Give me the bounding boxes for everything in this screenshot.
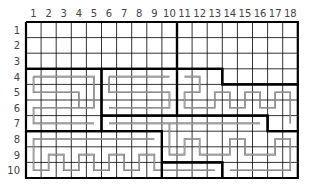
column-label: 14: [223, 8, 236, 19]
column-label: 9: [151, 8, 157, 19]
column-label: 12: [193, 8, 206, 19]
snake-mid-center-2-inner: [109, 77, 169, 108]
row-label: 4: [14, 72, 20, 83]
column-label: 8: [136, 8, 142, 19]
column-label: 2: [45, 8, 51, 19]
column-label: 16: [254, 8, 267, 19]
column-label: 10: [163, 8, 176, 19]
column-label: 7: [121, 8, 127, 19]
row-label: 10: [7, 165, 20, 176]
puzzle-grid: 12345678910111213141516171812345678910: [0, 0, 311, 190]
column-label: 18: [284, 8, 297, 19]
column-label: 11: [178, 8, 191, 19]
column-label: 13: [208, 8, 221, 19]
row-label: 9: [14, 150, 20, 161]
row-label: 2: [14, 40, 20, 51]
column-label: 15: [239, 8, 252, 19]
column-label: 17: [269, 8, 282, 19]
row-label: 1: [14, 25, 20, 36]
column-label: 5: [91, 8, 97, 19]
column-label: 1: [30, 8, 36, 19]
column-label: 4: [76, 8, 82, 19]
column-label: 6: [106, 8, 112, 19]
row-label: 6: [14, 103, 20, 114]
column-label: 3: [61, 8, 67, 19]
snake-bottom-left-inner: [34, 139, 215, 170]
row-label: 7: [14, 118, 20, 129]
row-label: 8: [14, 134, 20, 145]
row-label: 3: [14, 56, 20, 67]
row-label: 5: [14, 87, 20, 98]
